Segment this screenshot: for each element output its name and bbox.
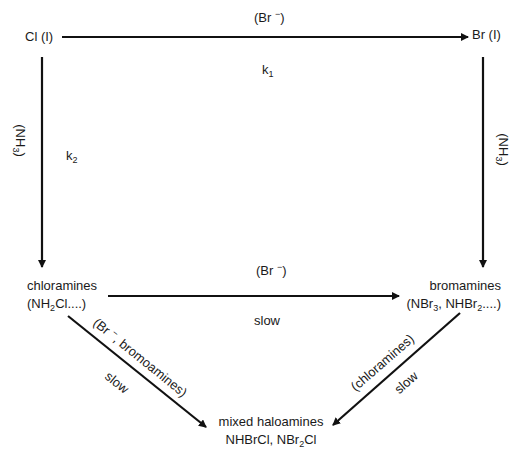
node-mixed-haloamines: mixed haloamines NHBrCl, NBr2Cl	[212, 413, 330, 449]
bromamines-formula: (NBr3, NHBr2....)	[406, 295, 501, 313]
node-bromamines: bromamines (NBr3, NHBr2....)	[406, 277, 501, 313]
label-cl-to-br-reagent: (Br −)	[254, 10, 285, 25]
label-chloramines-to-bromamines-reagent: (Br −)	[256, 263, 287, 278]
label-k1: k1	[262, 62, 274, 77]
label-cl-to-chloramines-reagent: (NH3)	[13, 124, 28, 156]
node-cl-label: Cl (I)	[25, 29, 53, 44]
node-br-label: Br (I)	[472, 27, 501, 42]
mixed-title: mixed haloamines	[212, 413, 330, 431]
label-k2: k2	[66, 148, 78, 163]
node-cl-i: Cl (I)	[25, 28, 53, 46]
chloramines-title: chloramines	[27, 277, 97, 295]
bromamines-title: bromamines	[406, 277, 501, 295]
node-br-i: Br (I)	[472, 26, 501, 44]
arrow-bromamines-to-mixed	[333, 313, 460, 425]
label-chloramines-to-bromamines-speed: slow	[254, 313, 280, 328]
mixed-formula: NHBrCl, NBr2Cl	[212, 431, 330, 449]
label-br-to-bromamines-reagent: (NH3)	[496, 133, 511, 165]
node-chloramines: chloramines (NH2Cl....)	[27, 277, 97, 313]
arrow-chloramines-to-mixed	[68, 316, 206, 427]
chloramines-formula: (NH2Cl....)	[27, 295, 97, 313]
